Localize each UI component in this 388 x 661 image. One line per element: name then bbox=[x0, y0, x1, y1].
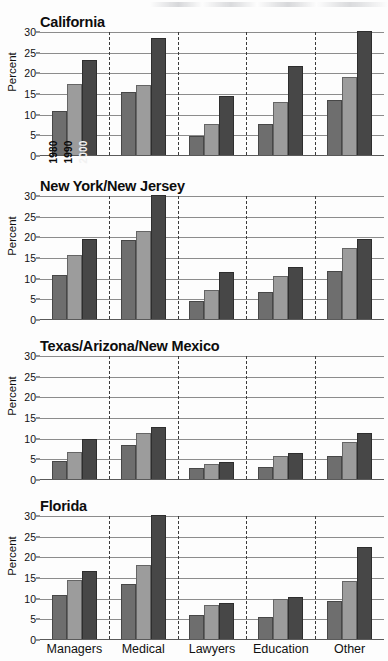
plot-box bbox=[40, 356, 384, 480]
y-axis-ticks: 051015202530 bbox=[0, 516, 40, 640]
bar bbox=[136, 85, 151, 155]
bar bbox=[204, 464, 219, 479]
bar bbox=[67, 452, 82, 479]
bar bbox=[357, 547, 372, 639]
y-tick-label: 10 bbox=[24, 594, 36, 604]
bar-group bbox=[109, 196, 178, 319]
bar bbox=[327, 100, 342, 155]
bar bbox=[52, 275, 67, 319]
bar-group bbox=[109, 356, 178, 479]
bar-group bbox=[315, 356, 384, 479]
y-tick-label: 25 bbox=[24, 48, 36, 58]
scan-artifact bbox=[150, 2, 388, 7]
bar bbox=[204, 605, 219, 639]
bar-group: 198019902000 bbox=[40, 32, 109, 155]
bar-groups bbox=[40, 516, 384, 639]
bar bbox=[357, 239, 372, 319]
figure-page: CaliforniaPercent05101520253019801990200… bbox=[0, 0, 388, 661]
plot-box: 198019902000 bbox=[40, 32, 384, 156]
bar-group bbox=[246, 356, 315, 479]
chart-panel: Texas/Arizona/New MexicoPercent051015202… bbox=[0, 338, 388, 480]
bar bbox=[327, 601, 342, 639]
bar-group bbox=[246, 516, 315, 639]
x-axis-label: Education bbox=[246, 642, 315, 656]
panel-title: California bbox=[40, 14, 388, 30]
x-axis-label: Managers bbox=[40, 642, 109, 656]
y-tick-label: 15 bbox=[24, 413, 36, 423]
y-tick-label: 10 bbox=[24, 110, 36, 120]
y-tick-label: 15 bbox=[24, 89, 36, 99]
bar bbox=[219, 603, 234, 639]
y-tick-label: 10 bbox=[24, 434, 36, 444]
bar bbox=[121, 92, 136, 155]
y-axis-ticks: 051015202530 bbox=[0, 196, 40, 320]
x-axis-label: Other bbox=[315, 642, 384, 656]
y-tick-label: 10 bbox=[24, 274, 36, 284]
bar bbox=[258, 124, 273, 155]
y-axis-ticks: 051015202530 bbox=[0, 356, 40, 480]
chart-panel: CaliforniaPercent05101520253019801990200… bbox=[0, 14, 388, 156]
bar-group bbox=[178, 32, 247, 155]
bar bbox=[82, 439, 97, 479]
plot-area: Percent051015202530198019902000 bbox=[0, 32, 388, 156]
x-axis-label: Lawyers bbox=[178, 642, 247, 656]
bar bbox=[136, 565, 151, 639]
bar-group bbox=[178, 356, 247, 479]
bar bbox=[273, 102, 288, 155]
bar: 1990 bbox=[67, 84, 82, 156]
bar-group bbox=[315, 32, 384, 155]
y-tick-label: 30 bbox=[24, 351, 36, 361]
panel-title: Texas/Arizona/New Mexico bbox=[40, 338, 388, 354]
bar-group bbox=[40, 516, 109, 639]
bar: 1980 bbox=[52, 111, 67, 155]
bar bbox=[327, 456, 342, 479]
bar bbox=[342, 581, 357, 639]
bar bbox=[82, 239, 97, 319]
bar bbox=[258, 292, 273, 319]
bar bbox=[136, 433, 151, 479]
bar bbox=[189, 301, 204, 319]
chart-panel: New York/New JerseyPercent051015202530 bbox=[0, 178, 388, 320]
plot-area: Percent051015202530 bbox=[0, 516, 388, 640]
bar bbox=[121, 240, 136, 319]
y-tick-label: 15 bbox=[24, 253, 36, 263]
bar bbox=[219, 462, 234, 479]
bar bbox=[273, 599, 288, 639]
bar bbox=[357, 31, 372, 155]
bar bbox=[342, 248, 357, 319]
bar bbox=[288, 66, 303, 155]
bar bbox=[219, 96, 234, 155]
bar-groups bbox=[40, 196, 384, 319]
bar bbox=[189, 468, 204, 479]
bar bbox=[189, 136, 204, 155]
bar bbox=[121, 584, 136, 639]
bar-group bbox=[109, 516, 178, 639]
y-axis-ticks: 051015202530 bbox=[0, 32, 40, 156]
bar: 2000 bbox=[82, 60, 97, 155]
bar bbox=[52, 595, 67, 639]
bar-groups: 198019902000 bbox=[40, 32, 384, 155]
x-axis-label: Medical bbox=[109, 642, 178, 656]
panel-title: Florida bbox=[40, 498, 388, 514]
bar bbox=[219, 272, 234, 319]
y-tick-label: 25 bbox=[24, 372, 36, 382]
bar bbox=[342, 77, 357, 155]
y-tick-label: 20 bbox=[24, 552, 36, 562]
y-tick-label: 20 bbox=[24, 392, 36, 402]
bar bbox=[273, 456, 288, 479]
bar-group bbox=[315, 516, 384, 639]
bar bbox=[204, 124, 219, 155]
y-tick-label: 25 bbox=[24, 212, 36, 222]
bar bbox=[288, 453, 303, 479]
y-tick-label: 30 bbox=[24, 27, 36, 37]
y-tick-label: 25 bbox=[24, 532, 36, 542]
y-tick-label: 30 bbox=[24, 511, 36, 521]
bar bbox=[342, 442, 357, 479]
bar bbox=[258, 617, 273, 639]
bar-group bbox=[246, 32, 315, 155]
y-tick-label: 15 bbox=[24, 573, 36, 583]
bar bbox=[288, 267, 303, 319]
bar bbox=[288, 597, 303, 639]
bar bbox=[204, 290, 219, 319]
bar-group bbox=[178, 516, 247, 639]
